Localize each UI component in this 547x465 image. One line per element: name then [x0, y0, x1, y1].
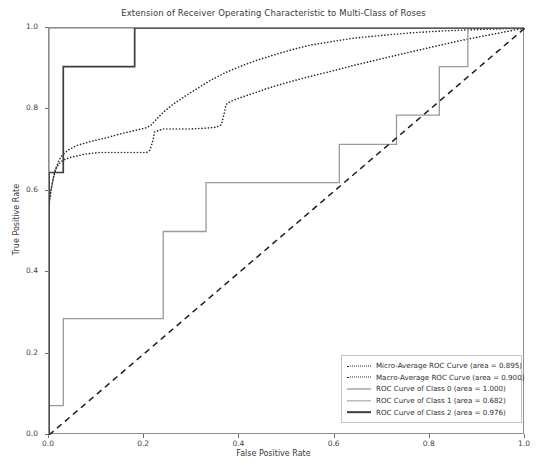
- legend-item[interactable]: Micro-Average ROC Curve (area = 0.895): [346, 360, 516, 372]
- legend-item[interactable]: ROC Curve of Class 0 (area = 1.000): [346, 383, 516, 395]
- x-tick-label: 0.8: [412, 439, 446, 448]
- x-tick-label: 1.0: [507, 439, 541, 448]
- chart-legend: Micro-Average ROC Curve (area = 0.895)Ma…: [341, 355, 522, 423]
- legend-line-swatch: [346, 396, 372, 406]
- x-tick-mark: [238, 434, 239, 438]
- x-tick-mark: [334, 434, 335, 438]
- y-axis-label: True Positive Rate: [12, 120, 21, 320]
- y-tick-mark: [45, 271, 49, 272]
- y-tick-mark: [45, 108, 49, 109]
- y-tick-mark: [45, 27, 49, 28]
- legend-item[interactable]: ROC Curve of Class 1 (area = 0.682): [346, 395, 516, 407]
- legend-line-swatch: [346, 384, 372, 394]
- y-tick-label: 0.2: [8, 348, 38, 357]
- x-tick-label: 0.6: [317, 439, 351, 448]
- legend-label: ROC Curve of Class 1 (area = 0.682): [376, 395, 506, 406]
- x-axis-label: False Positive Rate: [0, 449, 547, 458]
- series-line: [49, 28, 525, 203]
- y-tick-label: 1.0: [8, 22, 38, 31]
- x-tick-mark: [524, 434, 525, 438]
- legend-item[interactable]: ROC Curve of Class 2 (area = 0.976): [346, 406, 516, 418]
- legend-label: ROC Curve of Class 0 (area = 1.000): [376, 383, 506, 394]
- legend-line-swatch: [346, 361, 372, 371]
- x-tick-label: 0.0: [31, 439, 65, 448]
- legend-line-swatch: [346, 407, 372, 417]
- y-tick-mark: [45, 353, 49, 354]
- legend-label: Macro-Average ROC Curve (area = 0.900): [376, 372, 524, 383]
- x-tick-mark: [48, 434, 49, 438]
- y-tick-mark: [45, 190, 49, 191]
- legend-line-swatch: [346, 372, 372, 382]
- x-tick-mark: [429, 434, 430, 438]
- legend-label: ROC Curve of Class 2 (area = 0.976): [376, 407, 506, 418]
- chart-title: Extension of Receiver Operating Characte…: [0, 8, 547, 18]
- roc-chart-figure: Extension of Receiver Operating Characte…: [0, 0, 547, 465]
- y-tick-label: 0.0: [8, 429, 38, 438]
- series-line: [49, 28, 525, 205]
- legend-label: Micro-Average ROC Curve (area = 0.895): [376, 360, 522, 371]
- x-tick-mark: [143, 434, 144, 438]
- x-tick-label: 0.2: [126, 439, 160, 448]
- x-tick-label: 0.4: [221, 439, 255, 448]
- y-tick-label: 0.8: [8, 103, 38, 112]
- legend-item[interactable]: Macro-Average ROC Curve (area = 0.900): [346, 372, 516, 384]
